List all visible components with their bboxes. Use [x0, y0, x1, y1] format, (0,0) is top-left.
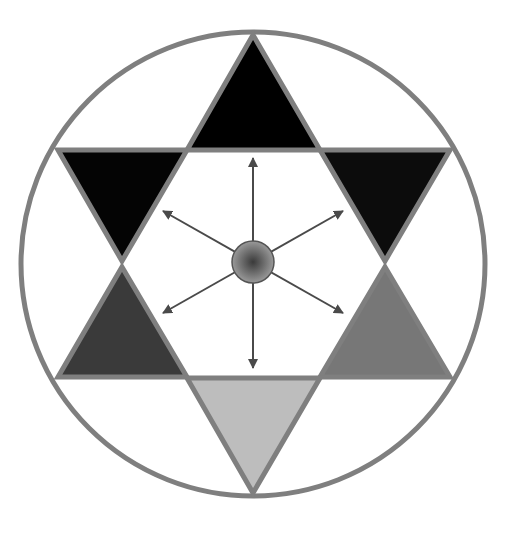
triangle-top	[187, 35, 320, 150]
hexagram-diagram	[0, 0, 510, 535]
triangle-lower-left	[58, 267, 187, 377]
center-ball-icon	[232, 241, 274, 283]
triangle-upper-right	[320, 150, 450, 261]
diagram-canvas	[0, 0, 510, 535]
triangle-bottom	[187, 378, 320, 493]
triangle-lower-right	[320, 267, 450, 377]
triangle-upper-left	[58, 150, 187, 261]
